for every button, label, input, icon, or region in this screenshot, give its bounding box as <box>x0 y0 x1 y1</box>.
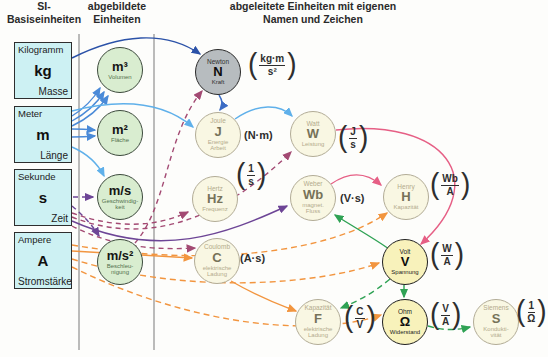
base-unit-box-sekunde: Sekunde s Zeit <box>14 169 72 226</box>
unit-quantity: elektrische Ladung <box>304 326 333 339</box>
unit-symbol: F <box>314 312 322 326</box>
formula-newton: ( kg·ms² ) <box>248 51 297 79</box>
unit-symbol: Ω <box>400 315 410 329</box>
derived-unit-ohm: Ohm Ω Widerstand <box>382 299 428 345</box>
header-mapped-units: abgebildete Einheiten <box>78 0 156 26</box>
formula-numerator: 1 <box>528 300 536 313</box>
formula-henry: ( WbA ) <box>430 171 470 199</box>
arrow-joule-watt <box>235 107 292 119</box>
unit-symbol: W <box>307 127 319 141</box>
paren-close: ) <box>287 50 296 79</box>
unit-quantity: Fläche <box>111 137 129 143</box>
unit-quantity: Widerstand <box>390 329 420 335</box>
formula-denominator: Ω <box>527 313 535 325</box>
base-unit-box-ampere: Ampere A Stromstärke <box>14 232 72 289</box>
arrow-m-m2-2 <box>72 136 95 137</box>
unit-quantity: Geschwindig- keit <box>102 198 138 211</box>
paren-open: ( <box>236 160 245 189</box>
unit-quantity: Kraft <box>212 79 225 85</box>
unit-quantity: Kapazität <box>393 204 418 210</box>
paren-open: ( <box>516 297 525 326</box>
unit-symbol: N <box>213 65 222 79</box>
unit-symbol: s <box>18 191 68 205</box>
unit-quantity: Leistung <box>302 141 325 147</box>
paren-close: ) <box>367 303 376 332</box>
header-base-units: SI- Basiseinheiten <box>0 0 88 26</box>
unit-name: Meter <box>18 108 68 119</box>
unit-name: Sekunde <box>18 171 68 182</box>
formula-denominator: s <box>350 139 356 151</box>
derived-unit-joule: Joule J Energie Arbeit <box>195 112 241 158</box>
paren-close: ) <box>452 300 461 329</box>
unit-symbol: S <box>492 312 501 326</box>
formula-denominator: V <box>357 319 364 331</box>
formula-numerator: kg·m <box>259 53 285 66</box>
derived-unit-siemens: Siemens S Kondukti- vität <box>473 299 519 345</box>
derived-unit-henry: Henry H Kapazität <box>383 174 429 220</box>
unit-quantity: Energie Arbeit <box>208 139 229 152</box>
formula-denominator: A <box>446 186 453 198</box>
derived-unit-watt: Watt W Leistung <box>290 111 336 157</box>
derived-unit-coulomb: Coulomb C elektrische Ladung <box>194 238 240 284</box>
formula-joule: (N·m) <box>244 129 273 141</box>
unit-symbol: m² <box>112 123 128 137</box>
formula-numerator: J <box>349 126 357 139</box>
unit-quantity: Zeit <box>18 213 68 224</box>
arrow-coulomb-farad <box>231 281 296 311</box>
unit-name: Kilogramm <box>18 44 68 55</box>
unit-symbol: m/s² <box>107 249 134 263</box>
unit-symbol: m/s <box>109 184 131 198</box>
arrow-m-m2-1 <box>72 129 95 130</box>
mapped-unit-ms: m/s Geschwindig- keit <box>97 174 143 220</box>
mapped-unit-m2: m² Fläche <box>97 110 143 156</box>
formula-coulomb: (A·s) <box>240 252 265 264</box>
unit-symbol: m³ <box>112 60 128 74</box>
derived-unit-volt: Volt V Spannung <box>382 239 428 285</box>
paren-open: ( <box>248 50 257 79</box>
formula-weber: (V·s) <box>340 192 364 204</box>
formula-numerator: 1 <box>247 163 255 176</box>
unit-quantity: Spannung <box>391 269 418 275</box>
unit-symbol: kg <box>18 64 68 78</box>
paren-open: ( <box>430 170 439 199</box>
mapped-unit-ms2: m/s² Beschleu- nigung <box>97 239 143 285</box>
formula-denominator: s <box>248 176 254 188</box>
unit-symbol: Hz <box>207 192 223 206</box>
formula-hertz: ( 1s ) <box>236 161 266 189</box>
paren-open: ( <box>338 123 347 152</box>
paren-close: ) <box>537 297 546 326</box>
formula-numerator: C <box>355 306 364 319</box>
formula-denominator: A <box>442 316 449 328</box>
base-unit-box-meter: Meter m Länge <box>14 106 72 163</box>
derived-unit-weber: Weber Wb magnet. Fluss <box>290 175 336 221</box>
unit-quantity: Masse <box>18 86 68 97</box>
derived-unit-newton: Newton N Kraft <box>195 49 241 95</box>
arrow-newton-joule <box>219 95 222 110</box>
formula-denominator: A <box>443 256 450 268</box>
arrow-s-ms2 <box>72 206 99 236</box>
formula-watt: ( Js ) <box>338 124 368 152</box>
formula-farad: ( CV ) <box>344 304 376 332</box>
paren-open: ( <box>430 300 439 329</box>
formula-siemens: ( 1Ω ) <box>516 298 547 326</box>
unit-quantity: Kondukti- vität <box>483 326 508 339</box>
unit-symbol: V <box>401 255 410 269</box>
unit-quantity: elektrische Ladung <box>203 265 232 278</box>
unit-quantity: magnet. Fluss <box>302 202 324 215</box>
paren-close: ) <box>257 160 266 189</box>
paren-close: ) <box>359 123 368 152</box>
unit-symbol: A <box>18 254 68 268</box>
formula-numerator: W <box>441 243 452 256</box>
formula-numerator: Wb <box>441 173 459 186</box>
derived-unit-hertz: Hertz Hz Frequenz <box>192 176 238 222</box>
formula-numerator: V <box>441 303 450 316</box>
unit-quantity: Volumen <box>108 74 131 80</box>
unit-quantity: Länge <box>18 150 68 161</box>
derived-unit-farad: Kapazität F elektrische Ladung <box>295 299 341 345</box>
arrow-m-ms <box>72 147 104 176</box>
unit-symbol: H <box>401 190 410 204</box>
unit-symbol: J <box>214 125 221 139</box>
unit-symbol: C <box>212 251 221 265</box>
unit-quantity: Beschleu- nigung <box>107 263 134 276</box>
base-unit-box-kilogramm: Kilogramm kg Masse <box>14 42 72 99</box>
